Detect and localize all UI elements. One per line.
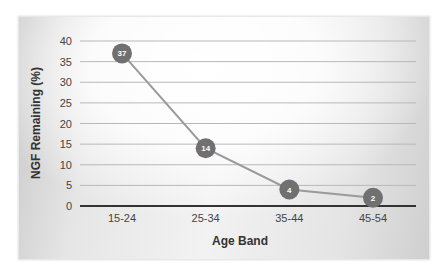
point-value-label: 37 <box>118 49 127 58</box>
x-tick-label: 35-44 <box>275 212 303 224</box>
y-tick-label: 15 <box>60 138 72 150</box>
y-axis-title: NGF Remaining (%) <box>29 67 43 179</box>
y-tick-label: 0 <box>66 200 72 212</box>
x-tick-label: 45-54 <box>359 212 387 224</box>
data-point: 2 <box>363 188 383 208</box>
y-tick-label: 5 <box>66 179 72 191</box>
x-tick-label: 25-34 <box>192 212 220 224</box>
y-tick-label: 25 <box>60 97 72 109</box>
x-axis-title: Age Band <box>212 234 268 248</box>
data-points: 371442 <box>112 43 383 207</box>
data-point: 37 <box>112 43 132 63</box>
series-line <box>122 53 373 197</box>
y-tick-label: 30 <box>60 76 72 88</box>
data-point: 14 <box>196 138 216 158</box>
y-tick-label: 40 <box>60 35 72 47</box>
point-value-label: 14 <box>201 144 210 153</box>
x-tick-label: 15-24 <box>108 212 136 224</box>
data-point: 4 <box>279 180 299 200</box>
line-chart: 0510152025303540 15-2425-3435-4445-54 37… <box>0 0 443 273</box>
point-value-label: 2 <box>371 194 376 203</box>
y-tick-label: 10 <box>60 159 72 171</box>
y-tick-label: 20 <box>60 118 72 130</box>
y-axis-ticks: 0510152025303540 <box>60 35 72 212</box>
point-value-label: 4 <box>287 186 292 195</box>
y-tick-label: 35 <box>60 56 72 68</box>
x-axis-ticks: 15-2425-3435-4445-54 <box>108 212 387 224</box>
